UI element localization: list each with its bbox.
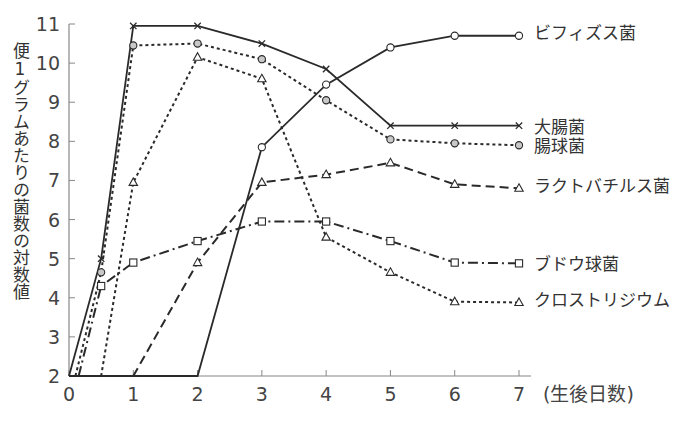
triangle-marker [258,74,266,82]
x-tick-label: 6 [449,383,461,405]
series-line [101,57,519,376]
circle-marker [258,56,265,63]
series-group [69,23,523,376]
legend-label-clostridium: クロストリジウム [534,290,670,310]
x-tick-label: 4 [320,383,332,405]
circle-marker [515,32,522,39]
series-line [69,26,519,376]
y-tick-label: 2 [48,365,60,387]
circle-marker [451,32,458,39]
circle-marker [387,136,394,143]
y-tick-label: 4 [48,287,60,309]
series-4 [79,218,523,376]
square-marker [98,282,105,289]
circle-marker [258,144,265,151]
legend-label-bifidus: ビフィズス菌 [534,23,636,43]
y-tick-label: 6 [48,209,60,231]
line-chart: 23456789101101234567 ビフィズス菌 大腸菌 腸球菌 ラクトバ… [0,0,678,424]
triangle-marker [129,178,137,186]
circle-marker [451,140,458,147]
y-tick-label: 5 [48,248,60,270]
circle-marker [323,81,330,88]
series-5 [101,53,523,376]
legend-label-enterococcus: 腸球菌 [534,136,585,156]
square-marker [130,259,137,266]
y-tick-label: 9 [48,91,60,113]
series-1 [69,23,522,376]
triangle-marker [322,233,330,241]
square-marker [387,237,394,244]
x-axis-label: (生後日数) [543,383,634,405]
x-tick-label: 3 [256,383,268,405]
x-tick-label: 5 [384,383,396,405]
circle-marker [130,42,137,49]
series-line [79,222,519,376]
square-marker [258,218,265,225]
circle-marker [98,269,105,276]
y-tick-label: 10 [36,52,60,74]
x-tick-label: 7 [513,383,525,405]
square-marker [515,260,522,267]
x-tick-label: 2 [192,383,204,405]
circle-marker [323,97,330,104]
y-tick-label: 11 [36,13,60,35]
square-marker [451,259,458,266]
square-marker [194,237,201,244]
y-tick-label: 7 [48,169,60,191]
legend-label-ecoli: 大腸菌 [534,117,585,137]
legend-label-staphylococcus: ブドウ球菌 [534,254,619,274]
legend-label-lactobacillus: ラクトバチルス菌 [534,176,670,196]
y-tick-label: 8 [48,130,60,152]
triangle-marker [193,53,201,61]
triangle-marker [258,178,266,186]
x-tick-label: 0 [63,383,75,405]
triangle-marker [386,158,394,166]
legend: ビフィズス菌 大腸菌 腸球菌 ラクトバチルス菌 ブドウ球菌 クロストリジウム [534,23,670,310]
circle-marker [194,40,201,47]
circle-marker [515,142,522,149]
series-2 [75,40,522,376]
triangle-marker [386,268,394,276]
square-marker [323,218,330,225]
series-0 [69,32,523,376]
series-line [75,44,519,376]
circle-marker [387,44,394,51]
series-3 [133,158,523,376]
series-line [133,163,519,376]
x-tick-label: 1 [127,383,139,405]
y-tick-label: 3 [48,326,60,348]
series-line [69,36,519,376]
